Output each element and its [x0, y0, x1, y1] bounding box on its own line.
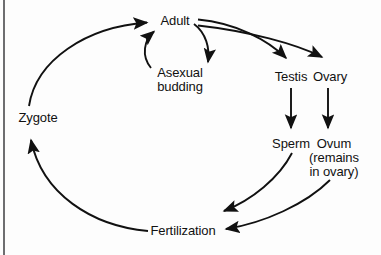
- node-ovum-line1: Ovum: [309, 137, 359, 151]
- node-asexual-budding-line1: Asexual: [157, 66, 203, 80]
- life-cycle-diagram: Adult Asexual budding Testis Ovary Sperm…: [0, 0, 381, 255]
- node-testis-label: Testis: [275, 69, 308, 84]
- node-adult-label: Adult: [160, 13, 189, 28]
- node-ovum-line2: (remains: [309, 151, 359, 165]
- node-zygote-label: Zygote: [18, 110, 57, 125]
- edge-asexual-budding-to-adult: [145, 32, 154, 69]
- node-ovum-line3: in ovary): [309, 165, 359, 179]
- edge-adult-to-asexual-budding: [194, 24, 208, 62]
- node-adult: Adult: [160, 14, 189, 28]
- node-testis: Testis: [275, 70, 308, 84]
- node-fertilization-label: Fertilization: [150, 223, 215, 238]
- edge-adult-to-ovary: [198, 26, 322, 58]
- edge-ovum-to-fertilization: [226, 180, 330, 229]
- node-asexual-budding: Asexual budding: [157, 66, 203, 94]
- node-asexual-budding-line2: budding: [157, 80, 203, 94]
- edge-sperm-to-fertilization: [224, 153, 292, 211]
- node-fertilization: Fertilization: [150, 224, 215, 238]
- edge-zygote-to-adult: [29, 23, 147, 107]
- node-ovary-label: Ovary: [313, 69, 347, 84]
- edge-fertilization-to-zygote: [31, 140, 148, 231]
- node-ovary: Ovary: [313, 70, 347, 84]
- node-sperm: Sperm: [272, 137, 310, 151]
- node-sperm-label: Sperm: [272, 136, 310, 151]
- node-ovum: Ovum (remains in ovary): [309, 137, 359, 179]
- node-zygote: Zygote: [18, 111, 57, 125]
- diagram-arrows-layer: [0, 0, 381, 255]
